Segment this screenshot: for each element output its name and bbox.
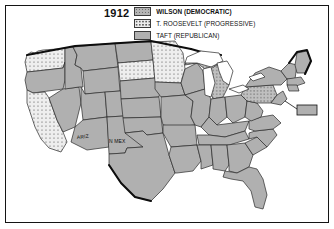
state-iowa: [155, 82, 185, 97]
state-label-new-mexico: N MEX: [109, 138, 126, 144]
legend-label-roosevelt: T. ROOSEVELT (PROGRESSIVE): [156, 19, 255, 28]
delaware-callout-box: [297, 105, 317, 115]
state-label-arizona: ARIZ: [76, 133, 89, 140]
map-legend: 1912 WILSON (DEMOCRATIC) T. ROOSEVELT (P…: [104, 6, 254, 40]
legend-swatch-roosevelt: [134, 19, 151, 28]
state-ohio: [225, 95, 247, 123]
legend-rows: WILSON (DEMOCRATIC) T. ROOSEVELT (PROGRE…: [134, 6, 255, 40]
legend-item-roosevelt: T. ROOSEVELT (PROGRESSIVE): [134, 18, 255, 28]
state-kansas: [121, 97, 161, 118]
delaware-callout-line: [285, 101, 297, 109]
state-alabama: [211, 145, 229, 171]
legend-item-wilson: WILSON (DEMOCRATIC): [134, 6, 255, 16]
state-missouri: [161, 95, 195, 127]
legend-swatch-taft: [134, 31, 151, 40]
legend-item-taft: TAFT (REPUBLICAN): [134, 30, 255, 40]
legend-label-wilson: WILSON (DEMOCRATIC): [156, 7, 231, 16]
state-wyoming: [83, 67, 120, 94]
legend-label-taft: TAFT (REPUBLICAN): [156, 31, 219, 40]
state-connecticut-ri: [287, 85, 299, 91]
election-map-figure: ARIZ N MEX 1912 WILSON (DEMOCRATIC) T. R…: [0, 0, 334, 229]
state-montana: [73, 43, 118, 71]
legend-swatch-wilson: [134, 7, 151, 16]
state-north-dakota: [115, 42, 153, 63]
state-louisiana: [169, 145, 201, 173]
state-florida: [223, 167, 267, 209]
year-label: 1912: [104, 6, 129, 20]
state-south-dakota: [118, 60, 155, 81]
state-arkansas: [163, 125, 197, 147]
